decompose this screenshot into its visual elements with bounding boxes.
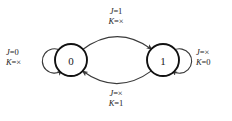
self-loop-label-state-0-k: K=× [6,57,40,67]
transition-label-1-to-0-k: K=1 [88,98,144,108]
j-value: =1 [113,6,122,16]
transition-label-0-to-1: J=1 K=× [88,6,144,27]
state-node-0-label: 0 [68,55,74,67]
transition-label-0-to-1-k: K=× [88,16,144,26]
transition-label-1-to-0-j: J=× [88,88,144,98]
j-value: =× [113,88,122,98]
transition-label-0-to-1-j: J=1 [88,6,144,16]
k-value: =× [114,16,123,26]
self-loop-label-state-0-j: J=0 [6,47,40,57]
state-node-1-label: 1 [160,55,166,67]
k-value: =1 [114,98,123,108]
state-diagram-canvas: 0 1 J=1 K=× J=× K=1 J=0 K=× J=× K=0 [0,0,232,121]
transition-label-1-to-0: J=× K=1 [88,88,144,109]
k-value: =× [12,57,21,67]
j-value: =× [200,47,209,57]
self-loop-label-state-1-k: K=0 [196,57,230,67]
transition-arc-1-to-0 [82,70,152,83]
j-value: =0 [10,47,19,57]
transition-arc-0-to-1 [82,37,152,50]
self-loop-label-state-0: J=0 K=× [6,47,40,68]
self-loop-label-state-1: J=× K=0 [196,47,230,68]
self-loop-label-state-1-j: J=× [196,47,230,57]
k-value: =0 [202,57,211,67]
